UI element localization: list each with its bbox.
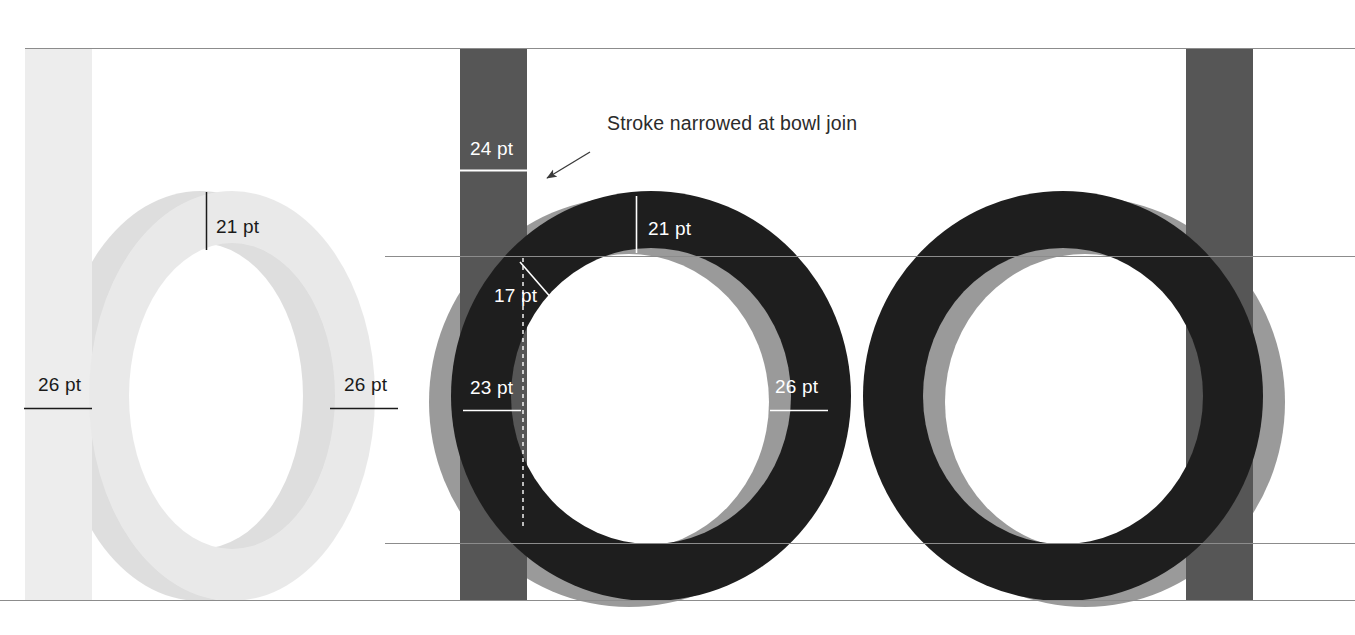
label-measure-light-left: 26 pt (38, 374, 82, 395)
typography-diagram: 21 pt 26 pt 26 pt 24 pt 21 pt 17 pt 23 p… (0, 0, 1355, 635)
label-measure-light-right: 26 pt (344, 374, 388, 395)
letter-o-dark-plain (0, 0, 1355, 635)
label-measure-dark-left: 23 pt (470, 377, 514, 398)
figure-stage: 21 pt 26 pt 26 pt 24 pt 21 pt 17 pt 23 p… (0, 0, 1355, 635)
annotation-text: Stroke narrowed at bowl join (607, 112, 857, 134)
label-measure-dark-stem-top: 24 pt (470, 138, 514, 159)
label-measure-light-top: 21 pt (216, 216, 260, 237)
label-measure-dark-bowl-join: 17 pt (494, 285, 538, 306)
label-measure-dark-right: 26 pt (775, 376, 819, 397)
label-measure-dark-top: 21 pt (648, 218, 692, 239)
letterforms (0, 0, 1355, 635)
